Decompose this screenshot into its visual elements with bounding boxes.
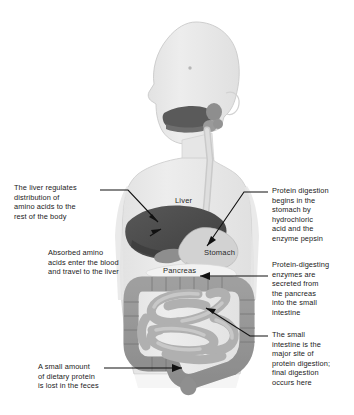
annotation-liver-regulates: The liver regulates distribution of amin… [14, 183, 106, 221]
organ-label-stomach: Stomach [204, 248, 235, 257]
annotation-stomach-digestion: Protein digestion begins in the stomach … [272, 186, 350, 244]
digestive-system-figure: Liver Stomach Pancreas The liver regulat… [0, 0, 354, 415]
annotation-absorbed-amino-acids: Absorbed amino acids enter the blood and… [48, 248, 154, 277]
annotation-pancreas-enzymes: Protein-digesting enzymes are secreted f… [272, 260, 350, 318]
eye-marker [188, 66, 191, 69]
organ-label-liver: Liver [175, 196, 192, 205]
organ-label-pancreas: Pancreas [163, 266, 196, 275]
annotation-feces-loss: A small amount of dietary protein is los… [38, 362, 130, 391]
annotation-small-intestine-site: The small intestine is the major site of… [272, 330, 352, 388]
